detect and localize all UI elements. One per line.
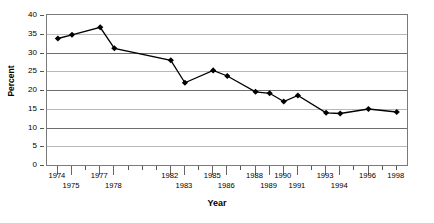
x-axis-tick-label: 1974 [48,172,65,180]
x-axis-tick-mark [198,166,199,170]
x-axis-tick-label: 1998 [387,172,404,180]
x-axis-tick-label: 1993 [317,172,334,180]
series-line-percent [47,15,407,165]
y-axis-tick-label: 0 [33,161,37,169]
y-axis-tick-label: 20 [28,86,37,94]
x-axis-tick-mark [142,166,143,170]
x-axis-tick-label: 1978 [105,182,122,190]
y-axis-tick-label: 10 [28,124,37,132]
x-axis-tick-mark [226,166,227,175]
x-axis-tick-label: 1988 [246,172,263,180]
data-point-marker [210,67,216,73]
y-axis-labels: 0510152025303540 [0,14,44,166]
x-axis-tick-label: 1996 [359,172,376,180]
x-axis-tick-mark [396,166,397,170]
x-axis-tick-label: 1986 [218,182,235,190]
data-point-marker [337,110,343,116]
y-axis-tick-label: 15 [28,105,37,113]
y-axis-tick-label: 5 [33,142,37,150]
x-axis-tick-mark [156,166,157,170]
data-point-marker [267,90,273,96]
data-point-marker [168,57,174,63]
x-axis-tick-label: 1983 [175,182,192,190]
x-axis-tick-label: 1982 [161,172,178,180]
y-axis-tick-label: 25 [28,67,37,75]
data-point-marker [323,110,329,116]
x-axis-tick-mark [71,166,72,175]
x-axis-tick-label: 1990 [274,172,291,180]
plot-area [46,14,408,166]
data-point-marker [365,106,371,112]
y-axis-tick-mark [40,146,44,147]
x-axis-tick-label: 1994 [331,182,348,190]
data-point-marker [295,92,301,98]
data-point-marker [69,32,75,38]
y-axis-tick-mark [40,15,44,16]
y-axis-tick-mark [40,128,44,129]
y-axis-tick-label: 30 [28,49,37,57]
x-axis-tick-label: 1991 [288,182,305,190]
data-point-marker [252,89,258,95]
y-axis-tick-mark [40,53,44,54]
data-point-marker [281,98,287,104]
x-axis-tick-label: 1989 [260,182,277,190]
x-axis: 1974197519771978198219831985198619881989… [46,166,408,196]
y-axis-tick-mark [40,109,44,110]
data-point-marker [224,73,230,79]
x-axis-tick-mark [311,166,312,170]
y-axis-tick-mark [40,34,44,35]
x-axis-tick-label: 1985 [204,172,221,180]
clipped-caption-remnant: ____ _ _ _ [248,0,418,4]
x-axis-tick-mark [269,166,270,175]
x-axis-tick-mark [353,166,354,170]
y-axis-tick-mark [40,71,44,72]
data-point-marker [394,109,400,115]
x-axis-tick-mark [85,166,86,170]
x-axis-tick-mark [297,166,298,175]
x-axis-tick-mark [128,166,129,170]
data-point-marker [55,35,61,41]
x-axis-tick-mark [339,166,340,175]
x-axis-tick-mark [240,166,241,170]
chart-container: ____ _ _ _ Percent 0510152025303540 1974… [0,0,434,223]
y-axis-tick-label: 40 [28,11,37,19]
x-axis-tick-mark [382,166,383,170]
x-axis-tick-label: 1977 [91,172,108,180]
x-axis-tick-label: 1975 [63,182,80,190]
y-axis-tick-label: 35 [28,30,37,38]
x-axis-title: Year [0,198,434,208]
y-axis-tick-mark [40,165,44,166]
y-axis-tick-mark [40,90,44,91]
x-axis-tick-mark [113,166,114,175]
x-axis-tick-mark [184,166,185,175]
